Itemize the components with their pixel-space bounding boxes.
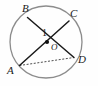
label-point-c: C	[70, 7, 78, 19]
geometry-figure: B C A D 1 O	[0, 0, 98, 86]
label-center-o: O	[51, 42, 58, 52]
geometry-canvas: B C A D 1 O	[0, 0, 98, 86]
label-point-d: D	[77, 53, 86, 65]
center-point-dot	[45, 40, 49, 44]
label-point-a: A	[6, 64, 14, 76]
label-angle-1: 1	[42, 27, 47, 38]
label-point-b: B	[22, 2, 29, 14]
